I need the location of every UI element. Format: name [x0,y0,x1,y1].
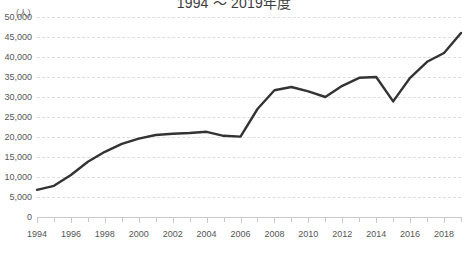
x-axis-tick [410,217,411,223]
x-axis-tick [325,217,326,222]
x-axis-tick [207,217,208,223]
y-axis-tick-label: 0 [0,212,32,222]
x-axis: 1994199619982000200220042006200820102012… [37,217,461,255]
x-axis-tick [71,217,72,223]
x-axis-tick [54,217,55,222]
x-axis-tick [461,217,462,222]
y-axis-tick-label: 25,000 [0,112,32,122]
y-axis-tick-label: 20,000 [0,132,32,142]
x-axis-tick [274,217,275,223]
x-axis-tick [308,217,309,223]
y-axis-tick-label: 40,000 [0,52,32,62]
x-axis-tick [156,217,157,222]
x-axis-tick [393,217,394,222]
y-axis-tick-label: 10,000 [0,172,32,182]
x-axis-tick-label: 2018 [424,229,464,239]
x-axis-tick [224,217,225,222]
x-axis-tick [122,217,123,222]
series-line-svg [37,17,461,217]
y-axis-tick-label: 50,000 [0,12,32,22]
x-axis-tick [190,217,191,222]
y-axis-tick-label: 45,000 [0,32,32,42]
x-axis-tick [427,217,428,222]
x-axis-tick [376,217,377,223]
plot-area [37,17,461,217]
line-chart: 1994 ～ 2019年度 (人) 50,00045,00040,00035,0… [0,0,468,255]
x-axis-tick [291,217,292,222]
y-axis-tick-label: 15,000 [0,152,32,162]
y-axis-tick-label: 5,000 [0,192,32,202]
x-axis-tick [173,217,174,223]
x-axis-tick [105,217,106,223]
x-axis-tick [139,217,140,223]
x-axis-tick [88,217,89,222]
x-axis-tick [444,217,445,223]
x-axis-tick [241,217,242,223]
x-axis-tick [342,217,343,223]
x-axis-tick [257,217,258,222]
y-axis-tick-label: 30,000 [0,92,32,102]
series-line-人数 [37,33,461,190]
chart-title: 1994 ～ 2019年度 [0,0,468,12]
x-axis-tick [359,217,360,222]
x-axis-tick [37,217,38,223]
y-axis-tick-label: 35,000 [0,72,32,82]
